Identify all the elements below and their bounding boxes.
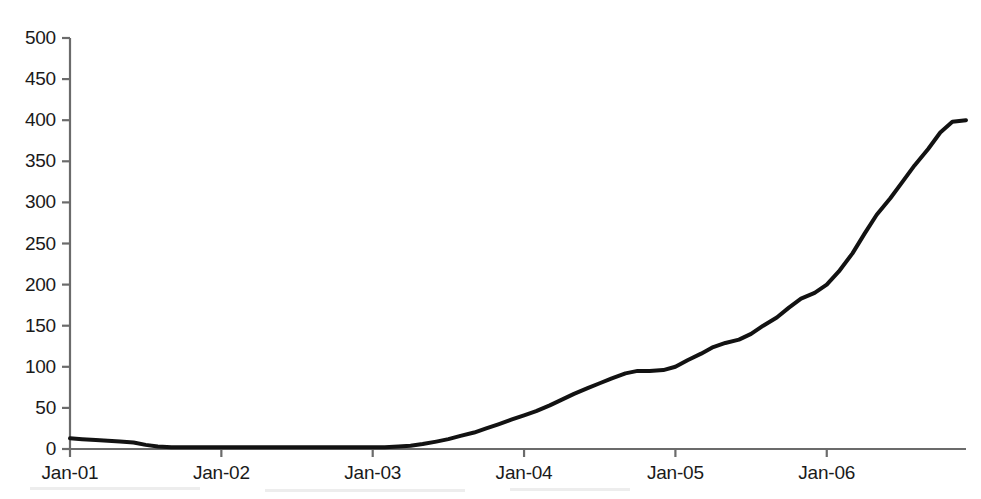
x-axis-tick-label: Jan-06: [798, 462, 855, 484]
y-axis-tick-label: 450: [0, 68, 56, 90]
line-chart-plot: [0, 0, 981, 499]
chart-figure: 050100150200250300350400450500 Jan-01Jan…: [0, 0, 981, 499]
y-axis-tick-label: 200: [0, 274, 56, 296]
y-axis-tick-label: 0: [0, 438, 56, 460]
x-axis-tick-label: Jan-02: [193, 462, 250, 484]
x-axis-tick-label: Jan-04: [496, 462, 553, 484]
y-axis-tick-label: 500: [0, 27, 56, 49]
data-series-group: [70, 120, 966, 447]
y-axis-tick-label: 100: [0, 356, 56, 378]
x-axis-tick-label: Jan-05: [647, 462, 704, 484]
y-axis-ticks: [62, 38, 70, 449]
y-axis-tick-label: 250: [0, 233, 56, 255]
x-axis-tick-label: Jan-01: [42, 462, 99, 484]
x-axis-ticks: [70, 449, 827, 457]
y-axis-tick-label: 150: [0, 315, 56, 337]
y-axis-tick-label: 300: [0, 191, 56, 213]
y-axis-tick-label: 350: [0, 150, 56, 172]
y-axis-tick-label: 400: [0, 109, 56, 131]
x-axis-tick-label: Jan-03: [344, 462, 401, 484]
y-axis-tick-label: 50: [0, 397, 56, 419]
axis-lines: [70, 38, 966, 449]
series-line-1: [70, 120, 966, 447]
